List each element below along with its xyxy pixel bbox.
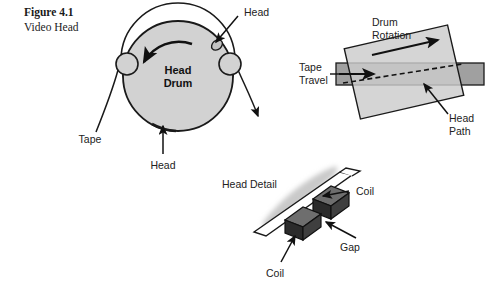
figure-caption-title: Video Head bbox=[24, 21, 79, 33]
coil-lower-leader bbox=[281, 236, 295, 262]
coil-upper-label: Coil bbox=[356, 185, 374, 197]
head-drum-body bbox=[123, 21, 233, 131]
gap-label: Gap bbox=[340, 241, 360, 253]
figure-page: Figure 4.1 Video Head Head Drum bbox=[0, 0, 498, 286]
tape-roller-right bbox=[219, 53, 241, 75]
head-detail-panel: Head Detail Coil Gap Coil bbox=[222, 166, 374, 279]
head-detail-title: Head Detail bbox=[222, 178, 277, 190]
head-path-label-line1: Head bbox=[449, 112, 474, 124]
head-path-label-line2: Path bbox=[449, 125, 471, 137]
drum-center-label-line2: Drum bbox=[164, 77, 193, 89]
figure-caption-number: Figure 4.1 bbox=[24, 6, 74, 19]
drum-rotation-label-line1: Drum bbox=[372, 16, 398, 28]
tape-roller-left bbox=[116, 53, 138, 75]
head-bottom-label: Head bbox=[150, 159, 175, 171]
coil-lower-label: Coil bbox=[266, 267, 284, 279]
tape-travel-label-line2: Travel bbox=[299, 74, 328, 86]
drum-rotation-label-line2: Rotation bbox=[372, 29, 411, 41]
head-top-label: Head bbox=[244, 6, 269, 18]
video-head-figure: Figure 4.1 Video Head Head Drum bbox=[0, 0, 498, 286]
drum-center-label-line1: Head bbox=[165, 64, 192, 76]
tape-line-left bbox=[96, 70, 118, 132]
head-drum-panel: Head Drum Head Head Tape bbox=[79, 3, 270, 171]
tape-travel-label-line1: Tape bbox=[299, 61, 322, 73]
tape-label: Tape bbox=[79, 133, 102, 145]
tape-line-right bbox=[238, 70, 258, 116]
gap-leader bbox=[326, 222, 356, 238]
drum-rotation-panel: Drum Rotation Tape Travel Head Path bbox=[299, 16, 484, 137]
